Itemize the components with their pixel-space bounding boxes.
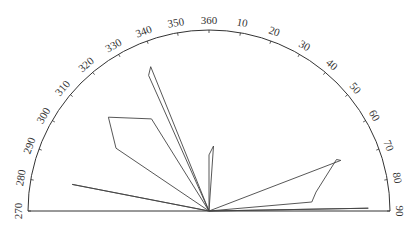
tick-label-30: 30 [297, 37, 313, 53]
tick-label-40: 40 [324, 56, 341, 73]
tick-label-330: 330 [103, 36, 124, 55]
tick-mark [70, 95, 72, 97]
tick-label-20: 20 [267, 24, 282, 39]
tick-mark [39, 149, 42, 150]
tick-mark [270, 41, 271, 44]
tick-label-340: 340 [134, 22, 154, 39]
tick-label-90: 90 [394, 206, 406, 218]
petals [72, 67, 368, 211]
petal-065-080 [209, 160, 341, 212]
tick-mark [93, 72, 95, 74]
petal-338 [149, 67, 209, 211]
tick-mark [31, 180, 34, 181]
tick-label-300: 300 [34, 105, 53, 126]
tick-label-360: 360 [201, 14, 218, 26]
tick-mark [376, 149, 379, 150]
tick-mark [178, 33, 179, 36]
petal-281 [72, 184, 209, 211]
tick-mark [298, 54, 300, 57]
tick-mark [345, 95, 347, 97]
petal-004 [209, 146, 214, 211]
tick-label-80: 80 [391, 171, 405, 184]
tick-label-10: 10 [236, 16, 249, 30]
tick-mark [323, 72, 325, 74]
rose-diagram: 2702802903003103203303403503601020304050… [0, 0, 417, 233]
tick-label-280: 280 [13, 168, 28, 187]
tick-mark [52, 121, 55, 123]
tick-mark [240, 33, 241, 36]
tick-mark [384, 180, 387, 181]
tick-label-350: 350 [167, 15, 186, 30]
tick-label-270: 270 [12, 202, 24, 219]
tick-label-50: 50 [348, 80, 365, 97]
tick-label-60: 60 [367, 108, 383, 124]
tick-mark [119, 54, 121, 57]
tick-mark [363, 121, 366, 123]
tick-label-70: 70 [381, 138, 396, 153]
tick-label-290: 290 [21, 135, 38, 155]
petal-300-325 [108, 117, 209, 211]
tick-mark [147, 41, 148, 44]
